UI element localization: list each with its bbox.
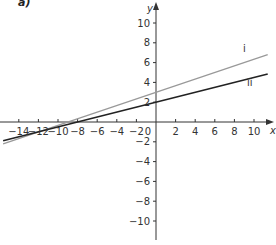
y-tick-label: −10 bbox=[129, 216, 150, 227]
y-tick-label: −4 bbox=[135, 156, 150, 167]
y-tick-label: −6 bbox=[135, 176, 150, 187]
series-label-i: i bbox=[243, 43, 246, 54]
x-tick-label: 2 bbox=[172, 126, 178, 137]
y-axis-label: y bbox=[146, 3, 154, 14]
y-tick-label: 2 bbox=[144, 97, 150, 108]
y-tick-label: 8 bbox=[144, 37, 150, 48]
axis-labels: −14−12−10−8−6−4−2246810−10−8−6−4−2246810… bbox=[8, 3, 276, 227]
x-tick-label: 4 bbox=[192, 126, 198, 137]
y-tick-label: 6 bbox=[144, 57, 150, 68]
origin-label: 0 bbox=[145, 126, 151, 137]
x-tick-label: −6 bbox=[90, 126, 105, 137]
x-tick-label: −4 bbox=[109, 126, 124, 137]
y-tick-label: −8 bbox=[135, 196, 150, 207]
x-tick-label: 6 bbox=[212, 126, 218, 137]
x-tick-label: −14 bbox=[8, 126, 29, 137]
series-label-ii: ii bbox=[247, 77, 253, 88]
x-axis-label: x bbox=[269, 125, 276, 136]
y-tick-label: 10 bbox=[137, 18, 150, 29]
x-tick-label: 8 bbox=[231, 126, 237, 137]
y-tick-label: −2 bbox=[135, 136, 150, 147]
y-axis-arrow-icon bbox=[153, 2, 159, 10]
x-tick-label: 10 bbox=[248, 126, 261, 137]
y-tick-label: 4 bbox=[144, 77, 150, 88]
x-tick-label: −10 bbox=[47, 126, 68, 137]
line-chart: −14−12−10−8−6−4−2246810−10−8−6−4−2246810… bbox=[0, 0, 276, 245]
x-tick-label: −8 bbox=[70, 126, 85, 137]
x-tick-label: −12 bbox=[28, 126, 49, 137]
